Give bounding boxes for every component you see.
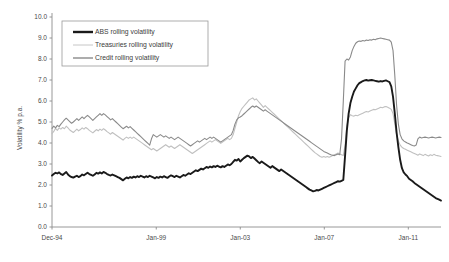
- y-axis-title: Volatility % p.a.: [16, 106, 24, 150]
- chart-legend: ABS rolling volatilityTreasuries rolling…: [62, 21, 208, 66]
- chart-canvas: 0.01.02.03.04.05.06.07.08.09.010.0 Dec-9…: [0, 0, 449, 262]
- x-axis-tick-label: Jan-99: [146, 234, 166, 241]
- y-axis-tick-label: 4.0: [38, 139, 47, 146]
- legend-label: ABS rolling volatility: [95, 28, 155, 36]
- y-axis-tick-label: 0.0: [38, 223, 47, 230]
- legend-label: Credit rolling volatility: [95, 54, 160, 62]
- y-axis-tick-label: 10.0: [34, 13, 47, 20]
- x-axis-tick-label: Dec-94: [42, 234, 63, 241]
- x-axis-tick-label: Jan-11: [399, 234, 419, 241]
- x-axis-tick-label: Jan-03: [230, 234, 250, 241]
- volatility-line-chart: 0.01.02.03.04.05.06.07.08.09.010.0 Dec-9…: [0, 0, 449, 262]
- y-axis-tick-label: 5.0: [38, 118, 47, 125]
- legend-label: Treasuries rolling volatility: [95, 41, 174, 49]
- y-axis-tick-label: 6.0: [38, 97, 47, 104]
- x-axis-tick-label: Jan-07: [314, 234, 334, 241]
- y-axis-tick-label: 2.0: [38, 181, 47, 188]
- y-axis-tick-label: 7.0: [38, 76, 47, 83]
- y-axis-tick-label: 1.0: [38, 202, 47, 209]
- y-axis-tick-label: 8.0: [38, 55, 47, 62]
- y-axis-tick-label: 3.0: [38, 160, 47, 167]
- y-axis-tick-label: 9.0: [38, 34, 47, 41]
